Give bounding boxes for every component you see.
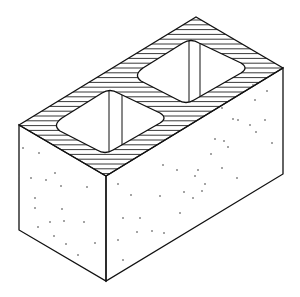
- texture-dot: [117, 183, 119, 185]
- texture-dot: [65, 243, 67, 245]
- texture-dot: [86, 186, 88, 188]
- texture-dot: [201, 190, 203, 192]
- texture-dot: [122, 259, 124, 261]
- top-face-hatching: [0, 20, 300, 174]
- texture-dot: [252, 84, 254, 86]
- texture-dot: [49, 221, 51, 223]
- core-hole-1: [56, 85, 164, 156]
- texture-dot: [221, 107, 223, 109]
- texture-dot: [227, 146, 229, 148]
- texture-dot: [37, 226, 39, 228]
- texture-dot: [192, 197, 194, 199]
- texture-dot: [54, 172, 56, 174]
- concrete-block-drawing: [0, 0, 300, 297]
- texture-dot: [214, 138, 216, 140]
- texture-dot: [162, 164, 164, 166]
- texture-dot: [176, 169, 178, 171]
- texture-dot: [53, 235, 55, 237]
- texture-dot: [249, 124, 251, 126]
- texture-dot: [117, 239, 119, 241]
- texture-dot: [83, 221, 85, 223]
- texture-dot: [45, 179, 47, 181]
- texture-dot: [77, 254, 79, 256]
- texture-dot: [210, 153, 212, 155]
- texture-dot: [94, 242, 96, 244]
- texture-dot: [34, 207, 36, 209]
- texture-dot: [266, 90, 268, 92]
- texture-dot: [30, 177, 32, 179]
- texture-dot: [254, 99, 256, 101]
- texture-dot: [223, 140, 225, 142]
- texture-dot: [194, 175, 196, 177]
- texture-dot: [197, 169, 199, 171]
- texture-dot: [163, 232, 165, 234]
- texture-dot: [232, 118, 234, 120]
- texture-dot: [63, 220, 65, 222]
- texture-dot: [179, 212, 181, 214]
- texture-dot: [22, 147, 24, 149]
- texture-dot: [136, 231, 138, 233]
- texture-dot: [130, 194, 132, 196]
- texture-dot: [237, 119, 239, 121]
- texture-dot: [159, 195, 161, 197]
- texture-dot: [271, 142, 273, 144]
- texture-dot: [61, 208, 63, 210]
- texture-dot: [204, 183, 206, 185]
- texture-dot: [183, 191, 185, 193]
- texture-dot: [264, 119, 266, 121]
- texture-dot: [60, 185, 62, 187]
- texture-dot: [236, 177, 238, 179]
- texture-dot: [255, 131, 257, 133]
- texture-dot: [221, 167, 223, 169]
- texture-dot: [151, 230, 153, 232]
- texture-dot: [38, 152, 40, 154]
- texture-dot: [122, 217, 124, 219]
- texture-dot: [139, 217, 141, 219]
- texture-dot: [34, 197, 36, 199]
